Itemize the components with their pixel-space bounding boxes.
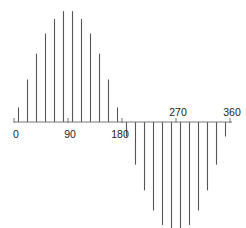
tick-label-360: 360 (223, 106, 241, 118)
tick-label-270: 270 (169, 106, 187, 118)
tick-label-90: 90 (64, 128, 76, 140)
tick-label-0: 0 (13, 128, 19, 140)
tick-label-180: 180 (111, 128, 129, 140)
sine-stem-chart: 0 90 180 270 360 (0, 0, 246, 228)
